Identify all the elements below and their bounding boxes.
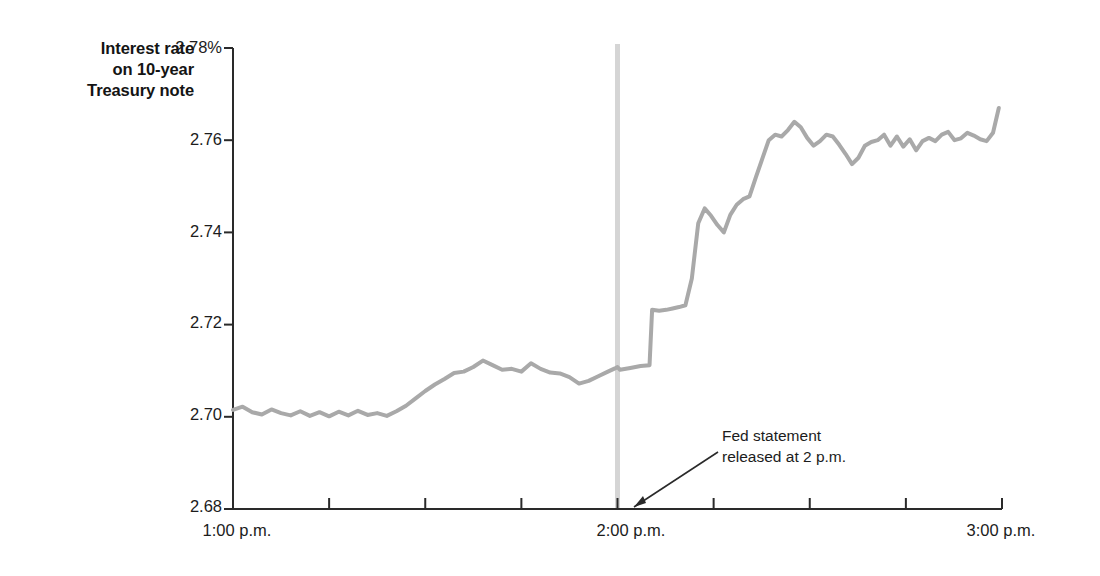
x-tick-label-3pm: 3:00 p.m. xyxy=(941,521,1061,540)
y-tick-label-2-70: 2.70 xyxy=(130,405,222,424)
y-axis-title-line-2: on 10-year xyxy=(112,60,194,78)
y-tick-label-2-72: 2.72 xyxy=(130,313,222,332)
y-axis-title-line-3: Treasury note xyxy=(87,81,194,99)
x-tick-label-1pm: 1:00 p.m. xyxy=(177,521,297,540)
y-tick-label-2-68: 2.68 xyxy=(130,497,222,516)
annotation-leader-line xyxy=(634,452,718,507)
annotation-line-2: released at 2 p.m. xyxy=(722,448,846,465)
y-tick-label-2-74: 2.74 xyxy=(130,222,222,241)
y-tick-label-2-78: 2.78% xyxy=(130,38,222,57)
fed-statement-annotation: Fed statement released at 2 p.m. xyxy=(722,425,846,467)
x-axis-ticks xyxy=(233,498,1002,509)
y-tick-label-2-76: 2.76 xyxy=(130,130,222,149)
y-axis-ticks xyxy=(224,48,233,509)
event-marker-line xyxy=(615,44,620,510)
x-tick-label-2pm: 2:00 p.m. xyxy=(571,521,691,540)
chart-figure: Interest rate on 10-year Treasury note 2… xyxy=(0,0,1100,576)
annotation-line-1: Fed statement xyxy=(722,427,821,444)
